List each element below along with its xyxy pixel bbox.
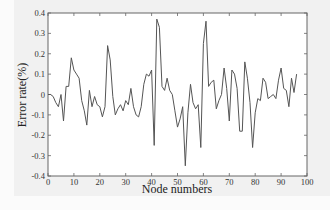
y-tick-label: 0.1 [34,69,45,79]
x-tick-label: 20 [96,177,105,187]
y-tick-label: -0.1 [32,110,45,120]
y-tick-label: 0.4 [34,8,45,18]
y-tick-label: -0.3 [32,151,45,161]
x-tick-label: 70 [225,177,234,187]
x-tick-label: 30 [121,177,130,187]
x-tick-label: 10 [70,177,79,187]
x-tick-label: 80 [251,177,260,187]
x-tick-label: 0 [46,177,50,187]
y-tick-label: 0.3 [34,28,45,38]
x-tick-label: 90 [277,177,286,187]
y-tick-label: -0.2 [32,130,45,140]
y-axis-title: Error rate(%) [15,63,29,127]
x-tick-label: 100 [301,177,314,187]
chart-figure: -0.4-0.3-0.2-0.100.10.20.30.4 0102030405… [0,0,330,210]
y-tick-label: 0.2 [34,49,45,59]
x-axis-title: Node numbers [142,182,213,196]
y-tick-label: 0 [41,90,45,100]
line-chart: -0.4-0.3-0.2-0.100.10.20.30.4 0102030405… [0,0,330,210]
y-tick-label: -0.4 [32,171,46,181]
plot-area [48,13,307,176]
